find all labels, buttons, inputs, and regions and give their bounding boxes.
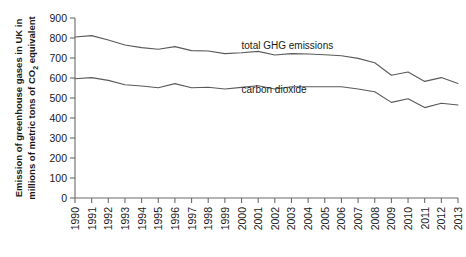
x-tick-label: 2004 — [302, 207, 314, 231]
y-axis-title-line2-post: equivalent — [26, 15, 37, 65]
x-tick-label: 2002 — [269, 207, 281, 231]
x-axis-ticks: 1990199119921993199419951996199719981999… — [69, 198, 464, 230]
y-tick-label: 800 — [49, 32, 67, 44]
y-tick-label: 200 — [49, 152, 67, 164]
x-tick-label: 2012 — [435, 207, 447, 231]
y-tick-label: 500 — [49, 92, 67, 104]
x-tick-label: 1990 — [69, 207, 81, 231]
x-tick-label: 2003 — [285, 207, 297, 231]
x-tick-label: 2010 — [402, 207, 414, 231]
y-tick-label: 600 — [49, 72, 67, 84]
x-tick-label: 1992 — [102, 207, 114, 231]
x-tick-label: 2001 — [252, 207, 264, 231]
y-axis-ticks: 0100200300400500600700800900 — [49, 12, 75, 204]
x-tick-label: 2011 — [419, 207, 431, 230]
y-tick-label: 300 — [49, 132, 67, 144]
x-tick-label: 1997 — [186, 207, 198, 231]
x-tick-label: 2009 — [385, 207, 397, 231]
x-tick-label: 2013 — [452, 207, 464, 231]
x-tick-label: 1991 — [86, 207, 98, 231]
series-label-2: carbon dioxide — [242, 84, 307, 95]
emissions-line-chart: Emission of greenhouse gases in UK inmil… — [0, 0, 466, 257]
x-tick-label: 2006 — [335, 207, 347, 231]
x-tick-label: 2007 — [352, 207, 364, 231]
series-label-1: total GHG emissions — [242, 40, 334, 51]
chart-container: Emission of greenhouse gases in UK inmil… — [0, 0, 466, 257]
y-axis-title-line1: Emission of greenhouse gases in UK in — [13, 19, 24, 198]
x-tick-label: 1994 — [136, 207, 148, 231]
y-axis-title-line2-pre: millions of metric tons of CO — [26, 70, 37, 200]
x-tick-label: 2008 — [369, 207, 381, 231]
x-tick-label: 1996 — [169, 207, 181, 231]
y-tick-label: 100 — [49, 172, 67, 184]
x-tick-label: 2005 — [319, 207, 331, 231]
x-tick-label: 1999 — [219, 207, 231, 231]
x-tick-label: 1998 — [202, 207, 214, 231]
y-tick-label: 0 — [61, 192, 67, 204]
x-tick-label: 1995 — [152, 207, 164, 231]
y-tick-label: 900 — [49, 12, 67, 24]
y-tick-label: 700 — [49, 52, 67, 64]
x-tick-label: 2000 — [236, 207, 248, 231]
y-axis-title-line2: millions of metric tons of CO2 equivalen… — [26, 15, 39, 199]
y-axis-title: Emission of greenhouse gases in UK inmil… — [13, 15, 39, 199]
x-tick-label: 1993 — [119, 207, 131, 231]
y-tick-label: 400 — [49, 112, 67, 124]
